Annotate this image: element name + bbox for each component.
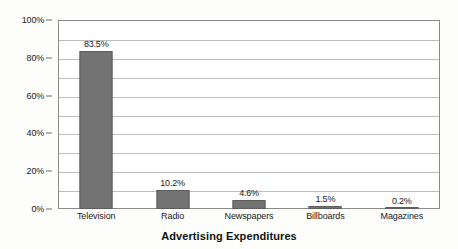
y-tick-mark [46,209,52,210]
bar-newspapers [232,200,265,209]
bar-slot: 83.5% [58,20,134,209]
bar-slot: 1.5% [287,20,363,209]
y-tick-mark [46,57,52,58]
bar-magazines [385,207,418,209]
bar-slot: 0.2% [364,20,440,209]
y-tick-mark [46,20,52,21]
x-tick-label: Television [77,211,116,221]
bar-radio [156,190,189,209]
y-tick-mark [46,133,52,134]
bar-billboards [309,206,342,209]
y-tick-label: 100% [22,15,44,25]
bar-value-label: 0.2% [392,196,412,206]
bar-television [80,51,113,209]
y-tick-mark [46,95,52,96]
y-tick-mark [46,171,52,172]
bar-value-label: 1.5% [316,194,336,204]
y-tick-label: 40% [27,128,44,138]
x-tick-label: Newspapers [224,211,273,221]
x-tick-label: Billboards [306,211,345,221]
x-axis: TelevisionRadioNewspapersBillboardsMagaz… [58,211,440,227]
y-tick-label: 20% [27,166,44,176]
bar-slot: 4.6% [211,20,287,209]
chart-title: Advertising Expenditures [0,230,458,242]
y-tick-label: 60% [27,91,44,101]
bar-slot: 10.2% [134,20,210,209]
bar-value-label: 10.2% [160,178,185,188]
bar-value-label: 83.5% [84,39,109,49]
y-axis: 0%20%40%60%80%100% [0,20,52,209]
bar-chart-figure: 0%20%40%60%80%100% 83.5%10.2%4.6%1.5%0.2… [0,0,458,249]
y-tick-label: 80% [27,53,44,63]
x-tick-label: Radio [161,211,184,221]
y-tick-label: 0% [31,204,44,214]
bars-layer: 83.5%10.2%4.6%1.5%0.2% [58,20,440,209]
bar-value-label: 4.6% [239,188,259,198]
x-tick-label: Magazines [380,211,423,221]
